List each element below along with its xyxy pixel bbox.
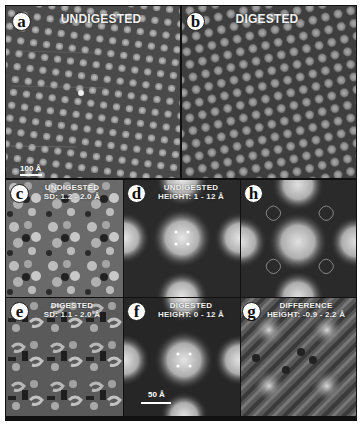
panel-d-title-line2: HEIGHT: 1 - 12 Å (148, 192, 234, 201)
scale-bar-label-a: 100 Å (20, 164, 41, 173)
lattice-image-a (6, 6, 180, 178)
panel-a-title: UNDIGESTED (46, 12, 156, 26)
panel-f-digested-height: f DIGESTED HEIGHT: 0 - 12 Å 50 Å (124, 298, 240, 416)
panel-label-c: c (10, 184, 29, 203)
panel-e-title-line2: SD: 1.1 - 2.0 Å (32, 310, 112, 319)
panel-a-undigested-afm: a UNDIGESTED 100 Å (6, 6, 180, 178)
panel-e-digested-sd: e DIGESTED SD: 1.1 - 2.0 Å (6, 298, 123, 416)
lattice-image-b (182, 6, 356, 178)
panel-f-title-line2: HEIGHT: 0 - 12 Å (148, 310, 234, 319)
figure-frame: a UNDIGESTED 100 Å b DIGESTED (5, 5, 357, 421)
panel-d-title-line1: UNDIGESTED (148, 183, 234, 192)
panel-g-title-line2: HEIGHT: -0.9 - 2.2 Å (259, 310, 353, 319)
panel-label-a: a (12, 12, 31, 31)
scale-bar-a (20, 174, 42, 176)
panel-e-title-line1: DIGESTED (32, 301, 112, 310)
panel-d-undigested-height: d UNDIGESTED HEIGHT: 1 - 12 Å (124, 180, 240, 297)
panel-label-h: h (244, 184, 263, 203)
panel-label-f: f (127, 302, 146, 321)
scale-bar-label-f: 50 Å (148, 390, 165, 399)
panel-h-overlay: h (241, 180, 356, 297)
panel-f-title-line1: DIGESTED (148, 301, 234, 310)
scale-bar-f (141, 402, 171, 404)
panel-b-title: DIGESTED (212, 12, 322, 26)
panel-c-title-line1: UNDIGESTED (32, 183, 112, 192)
panel-label-d: d (127, 184, 146, 203)
panel-g-title-line1: DIFFERENCE (259, 301, 353, 310)
panel-label-b: b (186, 12, 205, 31)
panel-b-digested-afm: b DIGESTED (182, 6, 356, 178)
panel-c-title-line2: SD: 1.2 - 2.0 Å (32, 192, 112, 201)
panel-g-difference: g DIFFERENCE HEIGHT: -0.9 - 2.2 Å (241, 298, 356, 416)
panel-label-e: e (10, 302, 29, 321)
panel-c-undigested-sd: c UNDIGESTED SD: 1.2 - 2.0 Å (6, 180, 123, 297)
